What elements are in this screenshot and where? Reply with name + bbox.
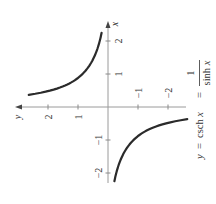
caption-eq1: =	[194, 143, 205, 149]
curve-positive-branch	[29, 33, 102, 95]
caption-denominator: sinh x	[201, 60, 212, 85]
y-tick-label: 1	[73, 115, 84, 120]
y-axis-label: y	[12, 114, 23, 120]
x-tick-label: 2	[113, 39, 124, 44]
y-tick-label: 2	[43, 115, 54, 120]
x-axis-label: x	[109, 21, 120, 27]
curve-negative-branch	[114, 119, 187, 181]
y-axis-arrow-icon	[15, 105, 22, 110]
caption-csch: csch x	[194, 112, 205, 138]
caption-numerator: 1	[185, 70, 196, 75]
csch-graph: x y −2−112−2−112 y = csch x = 1 sinh x	[0, 0, 216, 204]
x-tick-label: −2	[93, 168, 104, 179]
y-tick-label: −2	[163, 88, 174, 99]
equation-caption: y = csch x = 1 sinh x	[185, 60, 212, 160]
y-tick-label: −1	[133, 88, 144, 99]
caption-eq2: =	[194, 92, 205, 98]
x-tick-label: 1	[113, 72, 124, 77]
caption-lhs: y	[194, 154, 205, 160]
x-tick-label: −1	[93, 135, 104, 146]
